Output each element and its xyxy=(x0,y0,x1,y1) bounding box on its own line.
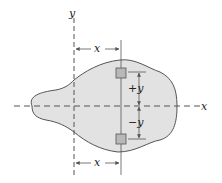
y-axis-label: y xyxy=(68,7,76,20)
plus-y-label: +y xyxy=(128,82,144,95)
area-element-bottom xyxy=(116,134,126,144)
minus-y-label: −y xyxy=(128,116,144,129)
top-x-dimension-label: x xyxy=(94,42,101,55)
centroid-diagram: y x x x +y −y xyxy=(0,0,222,183)
area-element-top xyxy=(116,68,126,78)
x-axis-label: x xyxy=(201,100,208,113)
bottom-x-dimension-label: x xyxy=(94,156,101,169)
